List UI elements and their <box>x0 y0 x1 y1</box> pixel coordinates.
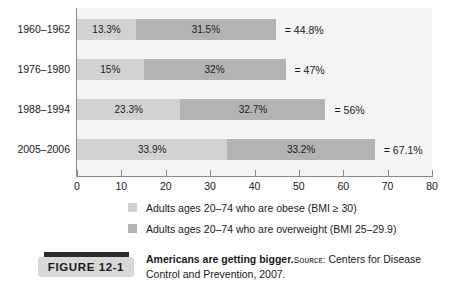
x-tick-mark <box>210 170 211 176</box>
stacked-bar: 33.9%33.2% <box>77 139 375 160</box>
chart-legend: Adults ages 20–74 who are obese (BMI ≥ 3… <box>128 197 448 239</box>
row-total-label: = 56% <box>335 104 365 116</box>
x-tick-label: 40 <box>249 180 261 192</box>
bar-row: 1988–199423.3%32.7%= 56% <box>0 94 460 128</box>
x-tick-mark <box>432 170 433 176</box>
x-tick-mark <box>121 170 122 176</box>
x-tick-label: 60 <box>337 180 349 192</box>
legend-item-overweight: Adults ages 20–74 who are overweight (BM… <box>128 218 448 239</box>
x-tick-mark <box>77 170 78 176</box>
bar-row: 1960–196213.3%31.5%= 44.8% <box>0 14 460 48</box>
x-tick-label: 20 <box>160 180 172 192</box>
bar-row: 1976–198015%32%= 47% <box>0 54 460 88</box>
stacked-bar: 23.3%32.7% <box>77 99 326 120</box>
stacked-bar: 15%32% <box>77 59 286 80</box>
row-category-label: 1988–1994 <box>0 103 70 115</box>
x-tick-mark <box>299 170 300 176</box>
stacked-bar: 13.3%31.5% <box>77 19 276 40</box>
legend-swatch-overweight <box>128 224 137 233</box>
row-total-label: = 67.1% <box>384 144 423 156</box>
bar-segment-overweight: 33.2% <box>227 139 374 160</box>
x-tick-mark <box>343 170 344 176</box>
bar-segment-overweight: 32% <box>144 59 286 80</box>
x-tick-mark <box>166 170 167 176</box>
x-tick-mark <box>388 170 389 176</box>
x-tick-label: 50 <box>293 180 305 192</box>
row-category-label: 2005–2006 <box>0 143 70 155</box>
x-tick-label: 30 <box>204 180 216 192</box>
x-tick-label: 10 <box>116 180 128 192</box>
legend-swatch-obese <box>128 203 137 212</box>
x-tick-mark <box>255 170 256 176</box>
bar-segment-overweight: 32.7% <box>180 99 325 120</box>
row-category-label: 1960–1962 <box>0 23 70 35</box>
bar-segment-overweight: 31.5% <box>136 19 276 40</box>
caption-source-label: Sᴏᴜʀᴄᴇ: <box>294 255 326 265</box>
figure-caption: Americans are getting bigger.Sᴏᴜʀᴄᴇ: Cen… <box>146 252 446 281</box>
figure-tag-label: FIGURE 12-1 <box>48 261 124 273</box>
bar-segment-obese: 23.3% <box>77 99 180 120</box>
caption-title: Americans are getting bigger. <box>146 253 294 265</box>
row-total-label: = 47% <box>295 64 325 76</box>
legend-item-obese: Adults ages 20–74 who are obese (BMI ≥ 3… <box>128 197 448 218</box>
bar-segment-obese: 13.3% <box>77 19 136 40</box>
x-tick-label: 70 <box>382 180 394 192</box>
bar-row: 2005–200633.9%33.2%= 67.1% <box>0 134 460 168</box>
row-total-label: = 44.8% <box>285 24 324 36</box>
figure-container: 01020304050607080 1960–196213.3%31.5%= 4… <box>0 0 460 295</box>
x-axis-line <box>76 176 433 177</box>
legend-label-overweight: Adults ages 20–74 who are overweight (BM… <box>146 223 396 235</box>
bar-segment-obese: 33.9% <box>77 139 227 160</box>
x-tick-label: 0 <box>74 180 80 192</box>
figure-tag-body: FIGURE 12-1 <box>38 257 134 277</box>
figure-tag: FIGURE 12-1 <box>38 257 134 279</box>
row-category-label: 1976–1980 <box>0 63 70 75</box>
legend-label-obese: Adults ages 20–74 who are obese (BMI ≥ 3… <box>146 202 357 214</box>
x-tick-label: 80 <box>426 180 438 192</box>
bar-segment-obese: 15% <box>77 59 144 80</box>
